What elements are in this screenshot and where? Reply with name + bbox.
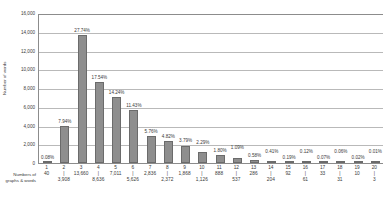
bar-percent-label: 0.58% bbox=[248, 154, 261, 159]
y-tick-label: 6,000 bbox=[1, 105, 38, 110]
y-tick-label: 0 bbox=[1, 162, 38, 167]
x-value-label: 61 bbox=[292, 177, 318, 183]
bar-group: 7.94% bbox=[60, 13, 69, 163]
bar-group: 3.79% bbox=[181, 13, 190, 163]
bar bbox=[181, 146, 190, 164]
bar-percent-label: 0.06% bbox=[334, 150, 347, 155]
bar-group: 0.08% bbox=[43, 13, 52, 163]
bar-group: 4.82% bbox=[164, 13, 173, 163]
bar-group: 17.54% bbox=[95, 13, 104, 163]
bar bbox=[285, 161, 294, 163]
bar-percent-label: 27.74% bbox=[74, 29, 90, 34]
x-value-label: 2,372 bbox=[154, 177, 180, 183]
bar-percent-label: 0.08% bbox=[41, 156, 54, 161]
bar-percent-label: 1.80% bbox=[214, 149, 227, 154]
bar-group: 0.02% bbox=[354, 13, 363, 163]
bar bbox=[336, 161, 345, 163]
x-axis-labels: 1402|3,908313,6604|8,63657,0116|5,62672,… bbox=[38, 165, 383, 204]
bar-group: 27.74% bbox=[78, 13, 87, 163]
bar bbox=[147, 136, 156, 163]
bar-percent-label: 14.24% bbox=[109, 91, 125, 96]
bar bbox=[267, 161, 276, 163]
bar bbox=[164, 141, 173, 163]
bar-percent-label: 1.09% bbox=[231, 146, 244, 151]
bar-percent-label: 3.79% bbox=[179, 139, 192, 144]
bar-percent-label: 4.82% bbox=[162, 135, 175, 140]
bar-group: 11.43% bbox=[129, 13, 138, 163]
y-tick-label: 2,000 bbox=[1, 143, 38, 148]
bar bbox=[319, 161, 328, 163]
x-value-label: 8,636 bbox=[85, 177, 111, 183]
bar-percent-label: 0.01% bbox=[369, 150, 382, 155]
y-tick-label: 12,000 bbox=[1, 49, 38, 54]
bar-group: 0.12% bbox=[302, 13, 311, 163]
bar bbox=[354, 161, 363, 163]
bar-group: 0.58% bbox=[250, 13, 259, 163]
x-value-label: 31 bbox=[327, 177, 353, 183]
bar bbox=[198, 152, 207, 163]
x-axis-title-line2: graphs & words bbox=[0, 178, 36, 184]
x-value-label: 3 bbox=[361, 177, 387, 183]
bar-percent-label: 0.12% bbox=[300, 150, 313, 155]
x-value-label: 1,126 bbox=[189, 177, 215, 183]
bar-percent-label: 0.19% bbox=[283, 156, 296, 161]
bar-group: 14.24% bbox=[112, 13, 121, 163]
x-axis-column: 20|3 bbox=[361, 165, 387, 183]
bar bbox=[302, 161, 311, 163]
bar bbox=[60, 126, 69, 163]
x-value-label: 204 bbox=[258, 177, 284, 183]
bar-percent-label: 0.41% bbox=[265, 150, 278, 155]
bar bbox=[43, 161, 52, 163]
bar bbox=[233, 158, 242, 163]
plot-area: 16,00014,00012,00010,0008,0006,0004,0002… bbox=[38, 14, 383, 164]
x-value-label: 3,908 bbox=[51, 177, 77, 183]
x-value-label: 537 bbox=[223, 177, 249, 183]
bar-group: 5.76% bbox=[147, 13, 156, 163]
y-tick-label: 14,000 bbox=[1, 30, 38, 35]
bar-group: 0.01% bbox=[371, 13, 380, 163]
bar-group: 0.07% bbox=[319, 13, 328, 163]
x-axis-title: Numbers of graphs & words bbox=[0, 172, 36, 184]
y-tick-label: 10,000 bbox=[1, 68, 38, 73]
bar-group: 2.29% bbox=[198, 13, 207, 163]
bar-percent-label: 11.43% bbox=[126, 104, 141, 109]
bar-percent-label: 0.02% bbox=[352, 156, 365, 161]
bar-percent-label: 5.76% bbox=[145, 130, 158, 135]
bar-group: 0.41% bbox=[267, 13, 276, 163]
bar-percent-label: 17.54% bbox=[92, 76, 108, 81]
bar-percent-label: 7.94% bbox=[58, 120, 71, 125]
bar-group: 1.09% bbox=[233, 13, 242, 163]
bar-group: 0.06% bbox=[336, 13, 345, 163]
y-tick-label: 4,000 bbox=[1, 124, 38, 129]
bar bbox=[129, 110, 138, 163]
bar bbox=[216, 155, 225, 163]
bar bbox=[250, 160, 259, 163]
bar-chart: Number of words 16,00014,00012,00010,000… bbox=[0, 0, 391, 204]
bar-group: 0.19% bbox=[285, 13, 294, 163]
bar-percent-label: 0.07% bbox=[317, 156, 330, 161]
bar bbox=[78, 35, 87, 163]
y-tick-label: 16,000 bbox=[1, 12, 38, 17]
bar-series: 0.08%7.94%27.74%17.54%14.24%11.43%5.76%4… bbox=[39, 14, 383, 163]
bar bbox=[112, 97, 121, 163]
bar-percent-label: 2.29% bbox=[196, 141, 209, 146]
y-tick-label: 8,000 bbox=[1, 87, 38, 92]
bar bbox=[371, 161, 380, 163]
x-value-label: 5,626 bbox=[120, 177, 146, 183]
bar-group: 1.80% bbox=[216, 13, 225, 163]
bar bbox=[95, 82, 104, 163]
